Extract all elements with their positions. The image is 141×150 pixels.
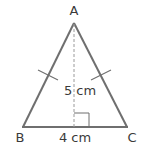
- equal-side-tick-ac-icon: [91, 70, 111, 80]
- height-length-label: 5 cm: [64, 83, 96, 98]
- equal-side-tick-ab-icon: [38, 70, 58, 80]
- vertex-label-a: A: [70, 3, 79, 18]
- right-angle-marker-icon: [74, 113, 89, 127]
- base-length-label: 4 cm: [59, 130, 91, 145]
- isosceles-triangle-diagram: A B C 4 cm 5 cm: [0, 0, 141, 150]
- vertex-label-c: C: [127, 130, 136, 145]
- vertex-label-b: B: [16, 130, 25, 145]
